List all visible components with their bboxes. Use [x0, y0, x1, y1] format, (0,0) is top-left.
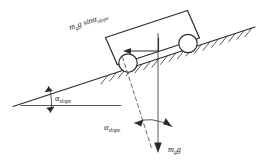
weight-vector-arrowhead: [154, 143, 162, 154]
label-gc-angle-sub: slope: [96, 15, 110, 25]
wheel-rear: [179, 34, 197, 52]
svg-text:αslope: αslope: [104, 123, 121, 133]
angle-arc-bottom-arrowhead-right: [163, 118, 172, 127]
angle-arc-arrowhead-bottom: [46, 107, 54, 113]
label-w-mid: g: [177, 145, 181, 154]
wheel-front: [119, 54, 137, 72]
label-angle-bottom-center: αslope: [104, 123, 121, 133]
label-angle-lower-left: αslope: [55, 94, 72, 104]
label-gravity-component: mgg sinαslope: [68, 11, 110, 33]
physics-diagram-root: mgg sinαslope αslope αslope mgg: [0, 0, 264, 164]
label-weight: mgg: [168, 145, 181, 155]
angle-arc-arrowhead-top: [45, 87, 53, 93]
label-abc-sub: slope: [108, 127, 120, 133]
svg-text:mgg: mgg: [168, 145, 181, 155]
angle-arc-bottom-center: [135, 118, 173, 127]
wagon-group: [106, 11, 200, 73]
svg-text:αslope: αslope: [55, 94, 72, 104]
inclined-plane-diagram: mgg sinαslope αslope αslope mgg: [0, 0, 264, 164]
svg-text:mgg sinαslope: mgg sinαslope: [68, 11, 110, 33]
label-all-sub: slope: [59, 98, 71, 104]
angle-arc-lower-left: [45, 87, 55, 113]
